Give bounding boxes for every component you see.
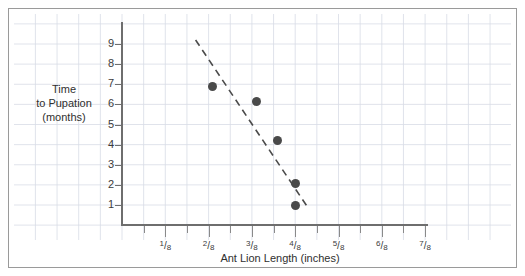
- y-tick-label: 9: [92, 38, 114, 49]
- x-tick-mark-minor: [144, 226, 145, 233]
- y-tick-mark: [115, 185, 122, 186]
- x-tick-mark-minor: [187, 226, 188, 233]
- x-tick-mark-minor: [317, 226, 318, 233]
- y-tick-mark: [115, 145, 122, 146]
- y-axis-title-line: Time: [18, 82, 110, 96]
- y-tick-label: 2: [92, 179, 114, 190]
- x-tick-mark-major: [425, 226, 426, 237]
- x-tick-label: 6/8: [365, 239, 399, 253]
- x-tick-label: 2/8: [192, 239, 226, 253]
- y-tick-label: 1: [92, 199, 114, 210]
- data-point: [291, 201, 300, 210]
- x-tick-mark-minor: [230, 226, 231, 233]
- x-tick-mark-minor: [360, 226, 361, 233]
- y-tick-mark: [115, 104, 122, 105]
- data-point: [252, 97, 261, 106]
- y-tick-mark: [115, 84, 122, 85]
- y-tick-label: 3: [92, 159, 114, 170]
- x-tick-label: 5/8: [322, 239, 356, 253]
- y-tick-mark: [115, 64, 122, 65]
- x-tick-mark-major: [382, 226, 383, 237]
- y-axis-title-line: to Pupation: [18, 96, 110, 110]
- x-tick-mark-major: [339, 226, 340, 237]
- y-axis-title-line: (months): [18, 110, 110, 124]
- y-tick-label: 4: [92, 139, 114, 150]
- y-tick-mark: [115, 125, 122, 126]
- y-tick-mark: [115, 205, 122, 206]
- data-point: [291, 179, 300, 188]
- y-axis-title: Timeto Pupation(months): [18, 82, 110, 124]
- x-tick-mark-major: [209, 226, 210, 237]
- x-tick-mark-major: [165, 226, 166, 237]
- y-tick-label: 8: [92, 58, 114, 69]
- x-tick-label: 4/8: [278, 239, 312, 253]
- x-axis-title: Ant Lion Length (inches): [155, 252, 405, 264]
- x-tick-mark-minor: [403, 226, 404, 233]
- x-tick-label: 3/8: [235, 239, 269, 253]
- x-tick-mark-minor: [274, 226, 275, 233]
- y-tick-mark: [115, 165, 122, 166]
- x-tick-label: 7/8: [408, 239, 442, 253]
- chart-figure: 123456789 1/82/83/84/85/86/87/8 Timeto P…: [0, 0, 525, 276]
- y-tick-mark: [115, 44, 122, 45]
- chart-plot-layer: [0, 0, 525, 276]
- x-tick-mark-major: [252, 226, 253, 237]
- x-tick-mark-major: [295, 226, 296, 237]
- x-tick-label: 1/8: [148, 239, 182, 253]
